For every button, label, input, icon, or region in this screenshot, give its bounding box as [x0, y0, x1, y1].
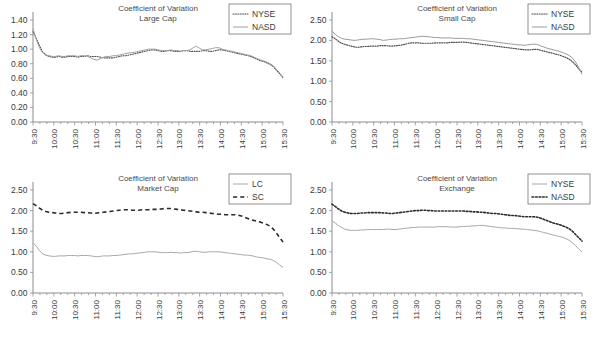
chart-title: Coefficient of Variation [118, 4, 198, 13]
x-tick-label: 12:00 [433, 299, 442, 320]
x-tick-label: 14:00 [516, 299, 525, 320]
x-tick-label: 13:30 [495, 128, 504, 149]
chart-subtitle: Exchange [439, 184, 475, 193]
y-tick-label: 0.00 [310, 117, 327, 127]
legend-label-lc: LC [252, 179, 263, 189]
x-tick-label: 14:30 [238, 128, 247, 149]
x-tick-label: 11:30 [412, 299, 421, 319]
y-tick-label: 2.00 [310, 206, 327, 216]
x-tick-label: 15:00 [259, 128, 268, 149]
figure-grid: Coefficient of VariationLarge Cap0.000.2… [0, 0, 598, 341]
x-tick-label: 12:30 [155, 128, 164, 149]
y-tick-label: 0.00 [11, 288, 28, 298]
x-tick-label: 11:00 [92, 299, 101, 319]
y-tick-label: 1.50 [11, 226, 28, 236]
chart-subtitle: Large Cap [139, 14, 177, 23]
chart-exchange: Coefficient of VariationExchange0.000.50… [299, 170, 598, 341]
x-tick-label: 12:30 [454, 299, 463, 320]
legend-label-nasd: NASD [551, 22, 575, 32]
x-tick-label: 12:00 [134, 128, 143, 149]
y-tick-label: 0.40 [11, 88, 28, 98]
x-tick-label: 15:30 [579, 128, 588, 149]
x-tick-label: 10:30 [71, 128, 80, 149]
chart-panel-exchange: Coefficient of VariationExchange0.000.50… [299, 170, 598, 341]
x-tick-label: 9:30 [329, 299, 338, 315]
series-line-nasd [332, 31, 582, 74]
y-tick-label: 0.00 [310, 288, 327, 298]
y-tick-label: 1.50 [310, 56, 327, 66]
series-line-nasd [33, 29, 283, 77]
y-tick-label: 1.00 [11, 247, 28, 257]
y-tick-label: 0.20 [11, 102, 28, 112]
chart-panel-large-cap: Coefficient of VariationLarge Cap0.000.2… [0, 0, 299, 170]
x-tick-label: 12:00 [134, 299, 143, 320]
y-tick-label: 0.50 [310, 97, 327, 107]
x-tick-label: 11:30 [113, 299, 122, 319]
y-tick-label: 1.50 [310, 226, 327, 236]
x-tick-label: 13:00 [474, 128, 483, 149]
y-tick-label: 0.50 [11, 267, 28, 277]
chart-small-cap: Coefficient of VariationSmall Cap0.000.5… [299, 0, 598, 170]
y-tick-label: 0.50 [310, 267, 327, 277]
x-tick-label: 14:00 [516, 128, 525, 149]
y-tick-label: 0.80 [11, 59, 28, 69]
chart-panel-market-cap: Coefficient of VariationMarket Cap0.000.… [0, 170, 299, 341]
chart-market-cap: Coefficient of VariationMarket Cap0.000.… [0, 170, 299, 341]
x-tick-label: 11:00 [92, 128, 101, 148]
y-tick-label: 2.00 [310, 35, 327, 45]
x-tick-label: 10:30 [370, 299, 379, 320]
x-tick-label: 14:00 [217, 128, 226, 149]
x-tick-label: 13:30 [196, 128, 205, 149]
x-tick-label: 12:00 [433, 128, 442, 149]
x-tick-label: 14:30 [537, 299, 546, 320]
x-tick-label: 11:30 [412, 128, 421, 148]
x-tick-label: 11:00 [391, 299, 400, 319]
series-line-lc [33, 243, 283, 268]
chart-panel-small-cap: Coefficient of VariationSmall Cap0.000.5… [299, 0, 598, 170]
legend-label-nyse: NYSE [551, 9, 574, 19]
series-line-nyse [332, 221, 582, 252]
legend-label-nyse: NYSE [252, 9, 275, 19]
x-tick-label: 13:30 [495, 299, 504, 320]
y-tick-label: 1.00 [11, 44, 28, 54]
x-tick-label: 15:30 [280, 128, 289, 149]
legend-label-nasd: NASD [252, 22, 276, 32]
x-tick-label: 12:30 [454, 128, 463, 149]
x-tick-label: 10:00 [349, 299, 358, 320]
x-tick-label: 11:30 [113, 128, 122, 148]
x-tick-label: 13:30 [196, 299, 205, 320]
x-tick-label: 15:30 [280, 299, 289, 320]
y-tick-label: 1.00 [310, 247, 327, 257]
x-tick-label: 14:00 [217, 299, 226, 320]
x-tick-label: 11:00 [391, 128, 400, 148]
series-line-sc [33, 204, 283, 242]
x-tick-label: 10:30 [71, 299, 80, 320]
series-line-nasd [332, 204, 582, 241]
y-tick-label: 2.00 [11, 206, 28, 216]
y-tick-label: 0.60 [11, 73, 28, 83]
x-tick-label: 13:00 [474, 299, 483, 320]
y-tick-label: 2.50 [310, 15, 327, 25]
y-tick-label: 1.00 [310, 76, 327, 86]
chart-subtitle: Market Cap [137, 184, 179, 193]
x-tick-label: 10:00 [50, 299, 59, 320]
y-tick-label: 2.50 [11, 185, 28, 195]
x-tick-label: 13:00 [175, 299, 184, 320]
x-tick-label: 15:30 [579, 299, 588, 320]
legend-label-nasd: NASD [551, 192, 575, 202]
x-tick-label: 9:30 [329, 128, 338, 144]
y-tick-label: 1.40 [11, 15, 28, 25]
x-tick-label: 15:00 [558, 128, 567, 149]
x-tick-label: 10:00 [349, 128, 358, 149]
y-tick-label: 2.50 [310, 185, 327, 195]
x-tick-label: 14:30 [537, 128, 546, 149]
chart-title: Coefficient of Variation [417, 4, 497, 13]
x-tick-label: 10:00 [50, 128, 59, 149]
x-tick-label: 9:30 [30, 128, 39, 144]
x-tick-label: 14:30 [238, 299, 247, 320]
legend-label-nyse: NYSE [551, 179, 574, 189]
x-tick-label: 12:30 [155, 299, 164, 320]
x-tick-label: 15:00 [558, 299, 567, 320]
x-tick-label: 9:30 [30, 299, 39, 315]
series-line-nyse [332, 37, 582, 72]
